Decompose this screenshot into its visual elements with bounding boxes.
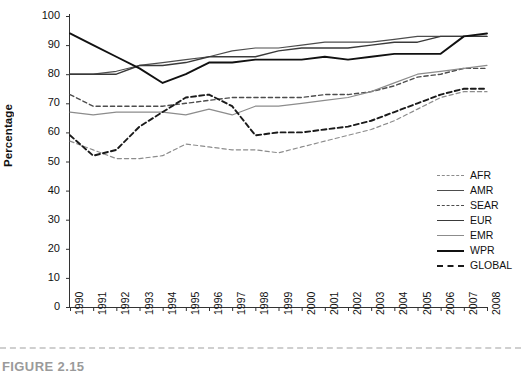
x-tick-label: 1998 [259, 292, 270, 315]
x-tick-label: 1993 [144, 292, 155, 315]
x-tick-label: 2004 [398, 292, 409, 315]
x-tick-label: 2001 [329, 292, 340, 315]
legend-item-amr[interactable]: AMR [437, 182, 521, 197]
legend-swatch-eur-icon [437, 215, 464, 225]
y-tick-label: 60 [34, 126, 60, 137]
legend-swatch-afr-icon [437, 170, 464, 180]
x-tick-label: 1990 [74, 292, 85, 315]
x-tick-label: 1991 [97, 292, 108, 315]
legend-item-wpr[interactable]: WPR [437, 242, 521, 257]
line-chart: Percentage 0102030405060708090100 199019… [0, 0, 521, 345]
x-tick-label: 1997 [236, 292, 247, 315]
legend-label: EUR [470, 214, 492, 226]
x-tick-label: 1999 [283, 292, 294, 315]
series-lines [70, 33, 487, 158]
y-tick-label: 0 [34, 301, 60, 312]
x-tick-label: 2006 [445, 292, 456, 315]
axis-lines [70, 14, 488, 308]
x-tick-label: 1996 [213, 292, 224, 315]
legend-label: SEAR [470, 199, 499, 211]
chart-legend: AFRAMRSEAREUREMRWPRGLOBAL [437, 167, 521, 273]
series-line-afr [70, 92, 487, 159]
y-tick-label: 70 [34, 97, 60, 108]
legend-item-afr[interactable]: AFR [437, 167, 521, 182]
legend-label: AMR [470, 184, 493, 196]
x-tick-label: 2007 [468, 292, 479, 315]
x-tick-label: 2005 [422, 292, 433, 315]
figure-caption: FIGURE 2.15 [2, 359, 84, 374]
x-tick-label: 1992 [120, 292, 131, 315]
legend-label: WPR [470, 244, 495, 256]
y-tick-label: 90 [34, 39, 60, 50]
y-tick-label: 20 [34, 243, 60, 254]
y-tick-label: 30 [34, 214, 60, 225]
legend-label: GLOBAL [470, 259, 512, 271]
x-tick-label: 1995 [190, 292, 201, 315]
x-tick-label: 2003 [375, 292, 386, 315]
legend-swatch-amr-icon [437, 185, 464, 195]
x-tick-label: 2008 [491, 292, 502, 315]
series-line-global [70, 89, 487, 156]
series-line-eur [70, 36, 487, 74]
legend-item-sear[interactable]: SEAR [437, 197, 521, 212]
legend-swatch-emr-icon [437, 230, 464, 240]
series-line-emr [70, 65, 487, 114]
y-axis-title: Percentage [2, 104, 16, 167]
x-tick-label: 2002 [352, 292, 363, 315]
figure-container: Percentage 0102030405060708090100 199019… [0, 0, 521, 384]
legend-label: EMR [470, 229, 493, 241]
legend-label: AFR [470, 169, 491, 181]
legend-item-eur[interactable]: EUR [437, 212, 521, 227]
y-tick-label: 50 [34, 156, 60, 167]
y-tick-label: 10 [34, 272, 60, 283]
legend-swatch-sear-icon [437, 200, 464, 210]
legend-swatch-wpr-icon [437, 245, 464, 255]
y-tick-label: 40 [34, 185, 60, 196]
x-tick-label: 2000 [306, 292, 317, 315]
y-tick-label: 100 [34, 10, 60, 21]
legend-swatch-global-icon [437, 260, 464, 270]
y-tick-label: 80 [34, 68, 60, 79]
legend-item-emr[interactable]: EMR [437, 227, 521, 242]
legend-item-global[interactable]: GLOBAL [437, 258, 521, 273]
caption-divider [0, 347, 521, 349]
x-tick-label: 1994 [167, 292, 178, 315]
